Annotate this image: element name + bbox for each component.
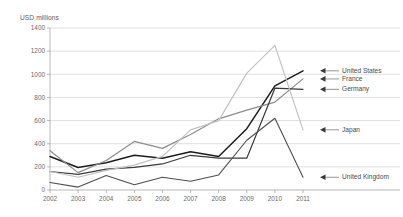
y-axis-title: USD millions xyxy=(20,14,60,21)
legend-entry-japan: Japan xyxy=(320,126,360,134)
legend-label: United Kingdom xyxy=(342,173,389,181)
legend-entry-france: France xyxy=(320,75,363,82)
legend-arrow-icon xyxy=(320,68,326,74)
y-tick-label: 200 xyxy=(34,163,45,170)
y-tick-label: 400 xyxy=(34,140,45,147)
x-tick-label: 2010 xyxy=(268,195,283,202)
x-tick-label: 2006 xyxy=(155,195,170,202)
series-line-united-states xyxy=(50,71,303,168)
legend-entry-germany: Germany xyxy=(320,85,370,93)
y-tick-label: 800 xyxy=(34,94,45,101)
line-chart: USD millions0200400600800100012001400200… xyxy=(0,0,403,217)
legend-arrow-icon xyxy=(320,76,326,82)
legend-arrow-icon xyxy=(320,127,326,133)
x-tick-label: 2009 xyxy=(240,195,255,202)
x-tick-label: 2002 xyxy=(43,195,58,202)
x-tick-label: 2004 xyxy=(99,195,114,202)
legend-label: Japan xyxy=(342,126,360,134)
legend-arrow-icon xyxy=(320,87,326,93)
x-tick-label: 2008 xyxy=(212,195,227,202)
y-tick-label: 1400 xyxy=(31,24,46,31)
legend-arrow-icon xyxy=(320,174,326,180)
y-tick-label: 600 xyxy=(34,117,45,124)
y-tick-label: 1200 xyxy=(31,47,46,54)
y-tick-label: 0 xyxy=(41,186,45,193)
legend-label: France xyxy=(342,75,363,82)
x-tick-label: 2007 xyxy=(183,195,198,202)
legend-label: Germany xyxy=(342,85,370,93)
x-tick-label: 2011 xyxy=(296,195,310,202)
legend-entry-united-states: United States xyxy=(320,67,382,74)
x-tick-label: 2005 xyxy=(127,195,142,202)
legend-entry-united-kingdom: United Kingdom xyxy=(320,173,389,181)
x-tick-label: 2003 xyxy=(71,195,86,202)
y-tick-label: 1000 xyxy=(31,71,46,78)
legend-label: United States xyxy=(342,67,382,74)
series-line-united-kingdom xyxy=(50,118,303,187)
chart-canvas: USD millions0200400600800100012001400200… xyxy=(0,0,403,217)
